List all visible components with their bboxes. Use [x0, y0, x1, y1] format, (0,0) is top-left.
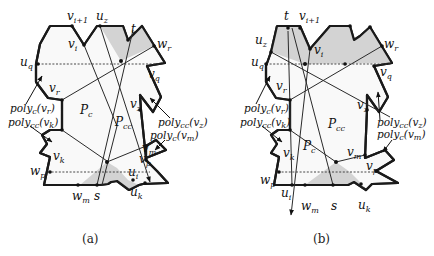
point-wp-a [48, 170, 52, 174]
point-vq-b [372, 64, 376, 68]
point-top-b [348, 24, 352, 28]
point-s-a [95, 183, 99, 187]
label-uz-b: uz [255, 33, 268, 49]
point-uk-b [359, 182, 363, 186]
caption-b: (b) [313, 232, 330, 246]
point-intersect-top-a [119, 59, 123, 63]
point-intersect-top-b [303, 62, 307, 66]
point-uz-a [98, 24, 102, 28]
point-vi-a [82, 43, 86, 47]
arrow-poly-c-vm-b [383, 140, 392, 152]
point-vk-a [60, 128, 64, 132]
point-s-b [331, 183, 335, 187]
label-uk-a: uk [130, 185, 143, 201]
label-poly-c-vm-a: polyc(vm) [150, 129, 199, 143]
label-poly-c-vm-b: polyc(vm) [377, 128, 426, 142]
point-ui-b [290, 183, 294, 187]
label-wm-a: wm [72, 189, 90, 205]
label-wp-a: wp [30, 164, 45, 180]
label-wm-b: wm [301, 199, 319, 215]
point-wr-a [152, 44, 156, 48]
label-s-a: s [94, 189, 100, 203]
label-ui-b: ui [281, 186, 292, 202]
label-wp-b: wp [260, 173, 275, 189]
label-vq-b: vq [380, 65, 392, 81]
label-poly-c-vr-b: polyc(vr) [244, 102, 289, 116]
label-s-b: s [331, 199, 337, 213]
label-uz-a: uz [96, 9, 109, 25]
label-vq-a: vq [148, 67, 160, 83]
point-wm-b [303, 183, 307, 187]
point-t-b [286, 26, 290, 30]
label-uk-b: uk [358, 198, 371, 214]
point-intersect-bottom-b [334, 160, 338, 164]
point-t-a [126, 38, 130, 42]
label-poly-cc-vz-a: polycc(vz) [158, 116, 208, 130]
point-vi1-b [298, 26, 302, 30]
caption-a: (a) [82, 232, 99, 246]
label-wr-b: wr [384, 37, 399, 53]
figure-a: vi+1 uz t vi wr uq vq vr Pc Pcc vz polyc… [8, 9, 208, 246]
point-top2-b [368, 25, 372, 29]
point-uq-b [264, 62, 268, 66]
point-uq-a [36, 62, 40, 66]
label-wr-a: wr [157, 37, 172, 53]
point-intersect-bottom-a [105, 160, 109, 164]
point-vk-b [288, 128, 292, 132]
point-wm-a [76, 183, 80, 187]
arrow-poly-c-vr-b [256, 76, 270, 104]
label-t-b: t [284, 9, 289, 23]
point-vi-b [308, 47, 312, 51]
label-poly-cc-vk-a: polycc(vk) [8, 116, 58, 130]
point-intersect-top2-b [343, 62, 347, 66]
label-vi1-b: vi+1 [299, 9, 320, 25]
point-vr-a [60, 98, 64, 102]
label-poly-c-vr-a: polyc(vr) [10, 102, 55, 116]
label-vi1-a: vi+1 [67, 9, 88, 25]
point-vm-b [363, 153, 367, 157]
point-uk-a [143, 181, 147, 185]
figure-b: t vi+1 uz vi wr uq vq vr vz Pcc Pc polyc… [240, 9, 427, 246]
label-uq-a: uq [20, 55, 33, 71]
arrow-poly-c-vr-a [26, 76, 42, 104]
label-poly-cc-vk-b: polycc(vk) [240, 116, 290, 130]
point-wp-b [277, 170, 281, 174]
label-t-a: t [131, 22, 136, 36]
point-uz-b [269, 50, 273, 54]
label-uq-b: uq [251, 55, 264, 71]
figure-canvas: vi+1 uz t vi wr uq vq vr Pc Pcc vz polyc… [0, 0, 434, 256]
